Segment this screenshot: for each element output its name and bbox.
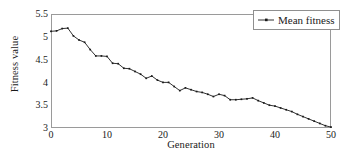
data-point: [325, 125, 327, 127]
data-point: [252, 97, 254, 99]
data-point: [319, 123, 321, 125]
data-point: [134, 71, 136, 73]
data-point: [308, 118, 310, 120]
plot-area: [51, 14, 331, 128]
data-point: [50, 30, 52, 32]
data-point: [274, 105, 276, 107]
data-point: [129, 68, 131, 70]
data-point: [213, 96, 215, 98]
data-point: [101, 55, 103, 57]
data-point: [168, 82, 170, 84]
x-axis-label: Generation: [51, 139, 331, 150]
series-mean-fitness: [50, 27, 332, 128]
data-point: [263, 102, 265, 104]
data-point: [140, 73, 142, 75]
data-point: [313, 120, 315, 122]
data-point: [73, 35, 75, 37]
data-point: [207, 93, 209, 95]
data-point: [302, 116, 304, 118]
data-point: [145, 77, 147, 79]
y-tick-label-5.5: 5.5: [2, 9, 48, 19]
data-point: [123, 67, 125, 69]
data-point: [297, 113, 299, 115]
legend-label-mean-fitness: Mean fitness: [278, 15, 335, 26]
data-point: [67, 27, 69, 29]
data-point: [235, 99, 237, 101]
data-point: [229, 99, 231, 101]
series-markers-mean-fitness: [50, 27, 332, 128]
data-point: [95, 55, 97, 57]
data-point: [117, 63, 119, 65]
data-point: [157, 79, 159, 81]
legend-line-sample-icon: [257, 15, 275, 25]
data-point: [280, 107, 282, 109]
data-point: [56, 30, 58, 32]
data-point: [185, 87, 187, 89]
data-point: [201, 92, 203, 94]
data-point: [246, 98, 248, 100]
data-point: [89, 49, 91, 51]
data-point: [291, 111, 293, 113]
data-point: [106, 56, 108, 58]
data-point: [112, 62, 114, 64]
data-point: [78, 39, 80, 41]
data-point: [151, 75, 153, 77]
y-tick-label-5: 5: [2, 32, 48, 42]
data-point: [84, 41, 86, 43]
legend-box[interactable]: Mean fitness: [253, 10, 340, 30]
data-point: [162, 82, 164, 84]
data-point: [285, 109, 287, 111]
data-point: [61, 28, 63, 30]
data-point: [173, 86, 175, 88]
figure-canvas: Fitness value 5.5 5 4.5 4 3.5 3 0 10 20 …: [0, 0, 348, 158]
data-point: [196, 91, 198, 93]
y-tick-label-4: 4: [2, 78, 48, 88]
data-point: [190, 89, 192, 91]
data-point: [330, 126, 332, 128]
data-point: [269, 104, 271, 106]
data-point: [218, 93, 220, 95]
y-tick-label-4.5: 4.5: [2, 55, 48, 65]
y-tick-label-3.5: 3.5: [2, 100, 48, 110]
data-point: [257, 100, 259, 102]
data-point: [241, 98, 243, 100]
series-line-mean-fitness: [51, 28, 331, 127]
data-point: [224, 95, 226, 97]
data-point: [179, 90, 181, 92]
